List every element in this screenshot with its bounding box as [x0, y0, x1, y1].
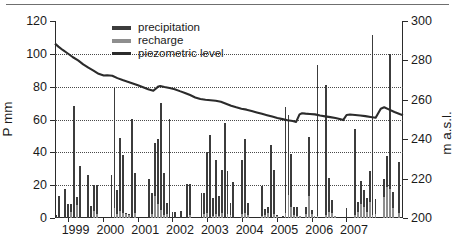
right-tick-label: 280	[411, 54, 432, 67]
right-tick	[403, 100, 408, 101]
left-tick-label: 40	[33, 146, 47, 159]
legend-swatch-bar	[112, 26, 131, 30]
x-tick-label: 2001	[131, 224, 159, 237]
x-tick	[207, 218, 208, 222]
legend-swatch-line	[112, 52, 131, 55]
left-axis-title: P mm	[0, 101, 15, 136]
left-tick-label: 60	[33, 113, 47, 126]
legend-swatch-bar	[112, 39, 131, 43]
right-tick-label: 200	[411, 212, 432, 225]
left-tick	[50, 218, 55, 219]
x-tick	[312, 218, 313, 222]
right-tick	[403, 218, 408, 219]
chart-legend: precipitationrechargepiezometric level	[112, 22, 224, 61]
left-tick-label: 80	[33, 80, 47, 93]
legend-label: piezometric level	[138, 48, 224, 60]
x-tick	[242, 218, 243, 222]
right-tick-label: 220	[411, 172, 432, 185]
x-tick-label: 2007	[340, 224, 368, 237]
left-tick-label: 100	[26, 48, 47, 61]
left-tick-label: 120	[26, 15, 47, 28]
figure-root: P mm m a.s.l. 020406080100120 2002202402…	[0, 0, 455, 251]
right-tick-label: 240	[411, 133, 432, 146]
x-tick	[172, 218, 173, 222]
left-tick-label: 20	[33, 179, 47, 192]
piezometric-level-line	[55, 21, 403, 218]
right-tick-label: 260	[411, 94, 432, 107]
x-tick	[103, 218, 104, 222]
x-tick	[138, 218, 139, 222]
left-tick-label: 0	[40, 212, 47, 225]
legend-item-precipitation: precipitation	[112, 22, 224, 34]
x-tick-label: 2002	[166, 224, 194, 237]
x-tick	[277, 218, 278, 222]
legend-label: recharge	[138, 35, 183, 47]
x-tick	[346, 218, 347, 222]
right-tick	[403, 179, 408, 180]
piezometric-level-path	[55, 44, 403, 122]
right-tick	[403, 21, 408, 22]
right-tick-label: 300	[411, 15, 432, 28]
x-tick	[68, 218, 69, 222]
x-tick-label: 1999	[62, 224, 90, 237]
right-axis-title: m a.s.l.	[439, 111, 454, 155]
x-tick-label: 2006	[305, 224, 333, 237]
x-tick-label: 2003	[201, 224, 229, 237]
x-tick-label: 2005	[270, 224, 298, 237]
legend-item-recharge: recharge	[112, 35, 224, 47]
x-tick-label: 2000	[96, 224, 124, 237]
right-tick	[403, 60, 408, 61]
top-divider-rule	[6, 4, 449, 5]
x-tick-label: 2004	[236, 224, 264, 237]
right-tick	[403, 139, 408, 140]
plot-area: 020406080100120 200220240260280300 19992…	[55, 21, 403, 218]
legend-label: precipitation	[138, 22, 200, 34]
legend-item-piezometric-level: piezometric level	[112, 48, 224, 60]
